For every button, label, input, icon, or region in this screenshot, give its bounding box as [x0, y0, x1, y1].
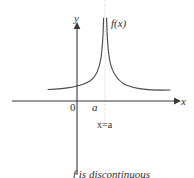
x-tick-label-a: a: [92, 101, 98, 114]
y-axis-label: y: [74, 12, 79, 25]
function-label: f(x): [111, 17, 126, 30]
asymptote-label: x=a: [97, 119, 112, 131]
origin-label: 0: [70, 101, 76, 114]
discontinuity-figure: y x f(x) 0 a x=a f is discontinuous at x…: [0, 0, 194, 178]
figure-caption: f is discontinuous at x=a: [73, 143, 150, 178]
caption-line-1: f is discontinuous: [73, 168, 150, 178]
x-axis-label: x: [181, 95, 186, 108]
